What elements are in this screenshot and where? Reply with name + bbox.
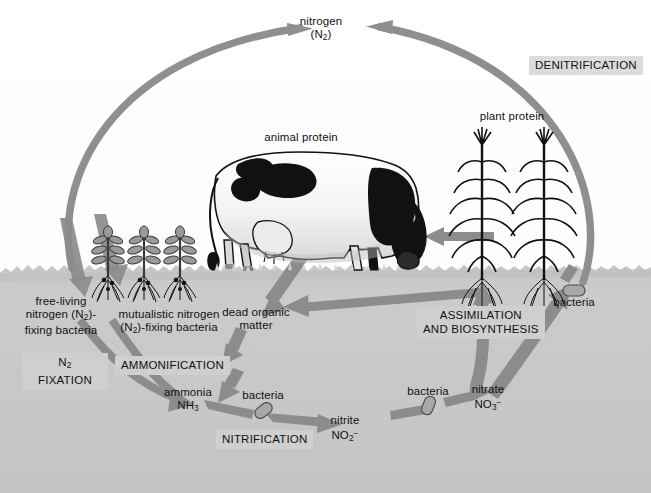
arrow-assimilation-tick <box>498 273 508 292</box>
free-living-line2: nitrogen (N2)- <box>26 308 97 320</box>
n2-fixation-line1: N2 <box>58 356 71 368</box>
animal-protein-text: animal protein <box>264 131 338 143</box>
label-ammonification: AMMONIFICATION <box>115 356 230 375</box>
assimilation-line2: AND BIOSYNTHESIS <box>423 323 539 335</box>
label-free-living-bacteria: free-living nitrogen (N2)- fixing bacter… <box>9 295 113 337</box>
label-animal-protein: animal protein <box>243 131 359 144</box>
assimilation-line1: ASSIMILATION <box>440 309 522 321</box>
label-denitrification: DENITRIFICATION <box>529 56 643 75</box>
free-living-line1: free-living <box>36 295 87 307</box>
label-bacteria-denitrifying: bacteria <box>545 296 603 309</box>
dead-organic-line2: matter <box>239 319 272 331</box>
n2-fixation-n: N <box>58 356 67 368</box>
mutualistic-line1: mutualistic nitrogen <box>118 308 219 320</box>
label-bacteria-nitrification-2: bacteria <box>399 385 457 398</box>
nitrogen-cycle-figure: . . . . . . . . . . . . . . . . . . . . … <box>0 0 651 493</box>
label-nitrification: NITRIFICATION <box>216 430 313 449</box>
free-living-line2-pre: nitrogen (N <box>26 308 84 320</box>
denitrification-text: DENITRIFICATION <box>535 59 637 71</box>
label-bacteria-nitrification-1: bacteria <box>234 389 292 402</box>
ammonia-formula-pre: NH <box>177 399 194 411</box>
plant-protein-text: plant protein <box>480 110 545 122</box>
nitrite-formula-sup: − <box>354 429 359 438</box>
nitrate-formula-sup: − <box>497 398 502 407</box>
nitrate-formula: NO3− <box>474 398 501 410</box>
mutualistic-line2-pre: (N <box>120 321 132 333</box>
nitrogen-formula-pre: (N <box>311 28 323 40</box>
ammonia-formula-sub: 3 <box>194 404 199 413</box>
label-nitrite: nitrite NO2− <box>316 414 374 445</box>
bacteria-icon-denitrifying <box>563 285 585 296</box>
label-dead-organic-matter: dead organic matter <box>208 306 304 332</box>
nitrite-formula-pre: NO <box>331 429 348 441</box>
free-living-line2-post: )- <box>88 308 96 320</box>
nitrite-formula: NO2− <box>331 429 358 441</box>
nitrification-text: NITRIFICATION <box>222 433 307 445</box>
bacteria-nitrification-2-text: bacteria <box>407 385 449 397</box>
nitrate-formula-pre: NO <box>474 398 491 410</box>
nitrite-line1: nitrite <box>331 414 360 426</box>
label-plant-protein: plant protein <box>457 110 567 123</box>
bacteria-nitrification-1-text: bacteria <box>242 389 284 401</box>
label-assimilation-biosynthesis: ASSIMILATION AND BIOSYNTHESIS <box>417 306 545 339</box>
ammonia-line1: ammonia <box>164 386 212 398</box>
nitrogen-formula-post: ) <box>328 28 332 40</box>
mutualistic-line2-post: )-fixing bacteria <box>137 321 217 333</box>
mutualistic-line2: (N2)-fixing bacteria <box>120 321 217 333</box>
label-nitrogen-formula: (N2) <box>311 28 332 40</box>
free-living-line3: fixing bacteria <box>25 324 97 336</box>
n2-fixation-sub: 2 <box>67 361 72 370</box>
n2-fixation-line2: FIXATION <box>38 374 92 386</box>
label-ammonia: ammonia NH3 <box>157 386 219 415</box>
label-nitrogen-line1: nitrogen <box>300 15 342 27</box>
nitrate-line1: nitrate <box>472 383 505 395</box>
ammonification-text: AMMONIFICATION <box>121 359 224 371</box>
bacteria-denitrifying-text: bacteria <box>553 296 595 308</box>
label-nitrate: nitrate NO3− <box>458 383 518 414</box>
label-nitrogen: nitrogen (N2) <box>281 15 361 44</box>
ammonia-formula: NH3 <box>177 399 199 411</box>
dead-organic-line1: dead organic <box>222 306 290 318</box>
label-n2-fixation: N2 FIXATION <box>22 353 108 390</box>
